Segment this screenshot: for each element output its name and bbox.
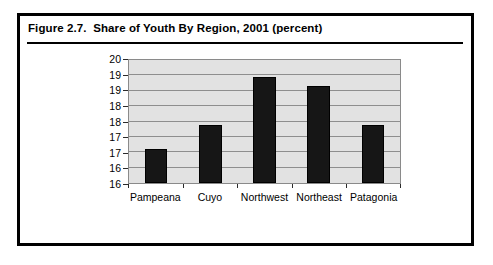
bar-patagonia [362, 125, 385, 183]
bar-slot [129, 60, 183, 183]
figure-frame: Figure 2.7. Share of Youth By Region, 20… [17, 13, 474, 246]
bar-slot [237, 60, 291, 183]
bar-slot [346, 60, 400, 183]
x-tick-mark [292, 184, 293, 188]
x-tick-label: Patagonia [334, 191, 413, 203]
bar-chart: 161617171818191920 PampeanaCuyoNorthwest… [94, 47, 401, 212]
y-tick-label: 20 [109, 52, 121, 66]
y-tick-label: 19 [109, 68, 121, 82]
bar-slot [183, 60, 237, 183]
y-tick-label: 18 [109, 99, 121, 113]
bars-layer [129, 60, 400, 183]
y-tick-label: 16 [109, 177, 121, 191]
plot-area [128, 59, 401, 184]
x-tick-mark [183, 184, 184, 188]
x-tick-mark [346, 184, 347, 188]
y-axis: 161617171818191920 [94, 59, 128, 184]
y-tick-label: 17 [109, 130, 121, 144]
x-axis-tick: Patagonia [346, 184, 401, 212]
bar-northwest [253, 77, 276, 183]
x-tick-mark [400, 184, 401, 188]
caption-divider [27, 42, 463, 44]
y-tick-label: 17 [109, 146, 121, 160]
y-tick-label: 19 [109, 83, 121, 97]
y-tick-label: 18 [109, 115, 121, 129]
figure-caption: Figure 2.7. Share of Youth By Region, 20… [28, 22, 458, 34]
x-axis: PampeanaCuyoNorthwestNortheastPatagonia [128, 184, 401, 212]
bar-northeast [307, 86, 330, 183]
bar-slot [292, 60, 346, 183]
x-tick-mark [128, 184, 129, 188]
y-tick-label: 16 [109, 161, 121, 175]
bar-pampeana [145, 149, 168, 183]
x-tick-mark [237, 184, 238, 188]
bar-cuyo [199, 125, 222, 183]
